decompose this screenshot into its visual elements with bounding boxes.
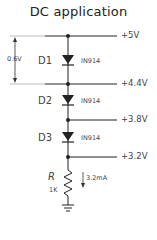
diode-ref-d2: D2 bbox=[38, 95, 52, 106]
current-label: 3.2mA bbox=[86, 174, 107, 182]
resistor-value: 1K bbox=[49, 186, 57, 194]
resistor-ref: R bbox=[48, 171, 55, 182]
arrow-down-icon bbox=[81, 183, 85, 188]
node-dot bbox=[66, 34, 70, 38]
resistor-icon bbox=[64, 167, 72, 205]
node-dot bbox=[66, 82, 70, 86]
diode-part-d2: IN914 bbox=[81, 97, 100, 105]
voltage-label-3v2: +3.2V bbox=[121, 151, 147, 161]
diode-d2-icon bbox=[62, 95, 74, 105]
diode-part-d3: IN914 bbox=[81, 134, 100, 142]
diode-ref-d3: D3 bbox=[38, 132, 52, 143]
node-dot bbox=[66, 118, 70, 122]
node-dot bbox=[66, 155, 70, 159]
voltage-label-5v: +5V bbox=[121, 30, 139, 40]
arrow-up-icon bbox=[13, 37, 17, 42]
diode-d3-icon bbox=[62, 132, 74, 142]
diode-d1-icon bbox=[62, 55, 74, 65]
arrow-down-icon bbox=[13, 78, 17, 83]
voltage-label-3v8: +3.8V bbox=[121, 114, 147, 124]
diode-part-d1: IN914 bbox=[81, 57, 100, 65]
voltage-label-4v4: +4.4V bbox=[121, 78, 147, 88]
voltage-drop-label: 0.6V bbox=[7, 55, 22, 63]
ground-icon bbox=[62, 205, 74, 211]
diode-ref-d1: D1 bbox=[38, 55, 52, 66]
